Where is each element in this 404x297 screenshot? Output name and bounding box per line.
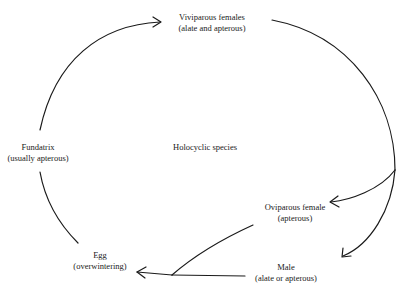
node-subtitle: (alate and apterous) xyxy=(178,23,245,34)
node-title: Viviparous females xyxy=(178,12,245,23)
node-fundatrix: Fundatrix (usually apterous) xyxy=(7,142,68,164)
arrow-fundatrix-to-viviparous xyxy=(40,22,160,130)
node-egg: Egg (overwintering) xyxy=(73,250,126,272)
arrow-branch-to-oviparous xyxy=(331,170,395,202)
node-viviparous-females: Viviparous females (alate and apterous) xyxy=(178,12,245,34)
node-title: Fundatrix xyxy=(7,142,68,153)
node-oviparous-female: Oviparous female (apterous) xyxy=(265,202,326,224)
node-subtitle: (apterous) xyxy=(265,213,326,224)
node-subtitle: (overwintering) xyxy=(73,261,126,272)
aphid-life-cycle-diagram: Viviparous females (alate and apterous) … xyxy=(0,0,404,297)
arrow-egg-to-fundatrix xyxy=(40,172,78,243)
arrow-male-to-junction xyxy=(172,275,245,276)
arrow-oviparous-to-junction xyxy=(172,225,253,275)
arrow-viviparous-to-branch xyxy=(272,20,395,170)
node-male: Male (alate or apterous) xyxy=(255,262,317,284)
node-subtitle: (alate or apterous) xyxy=(255,273,317,284)
arrow-branch-to-male xyxy=(343,170,395,256)
node-title: Egg xyxy=(73,250,126,261)
center-label: Holocyclic species xyxy=(173,142,237,153)
node-subtitle: (usually apterous) xyxy=(7,153,68,164)
node-title: Oviparous female xyxy=(265,202,326,213)
center-label-text: Holocyclic species xyxy=(173,142,237,153)
node-title: Male xyxy=(255,262,317,273)
arrow-junction-to-egg xyxy=(137,272,172,275)
